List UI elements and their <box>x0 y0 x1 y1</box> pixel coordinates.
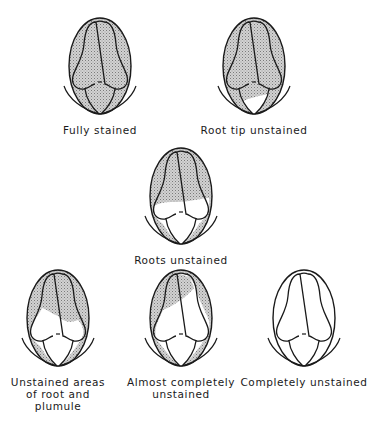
seed-roots-unstained <box>145 148 217 244</box>
label-roots-unstained: Roots unstained <box>106 254 256 266</box>
seed-root-tip-unstained <box>218 18 290 114</box>
label-completely-unstained: Completely unstained <box>229 376 379 388</box>
label-line: Root tip unstained <box>179 124 329 136</box>
seed-coat <box>273 270 335 366</box>
label-line: Roots unstained <box>106 254 256 266</box>
staining-diagram <box>0 0 381 421</box>
label-line: plumule <box>0 400 133 412</box>
label-line: Fully stained <box>25 124 175 136</box>
seed-completely-unstained <box>268 270 340 366</box>
label-root-tip-unstained: Root tip unstained <box>179 124 329 136</box>
label-line: Completely unstained <box>229 376 379 388</box>
label-fully-stained: Fully stained <box>25 124 175 136</box>
unstained-region <box>154 198 209 244</box>
seed-fully-stained <box>64 18 136 114</box>
seed-almost-completely-unstained <box>145 270 217 366</box>
seed-unstained-areas-root-plumule <box>22 270 94 366</box>
label-line: unstained <box>106 388 256 400</box>
seed-coat <box>69 18 131 114</box>
